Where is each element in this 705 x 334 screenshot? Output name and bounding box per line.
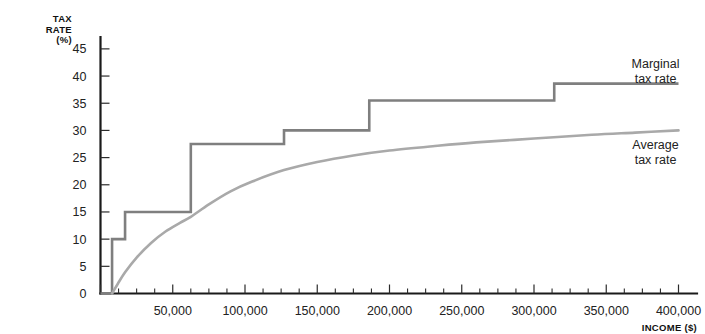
x-tick-label: 150,000 (295, 304, 340, 318)
series-label-line: tax rate (635, 153, 677, 167)
x-tick-label: 400,000 (656, 304, 701, 318)
x-tick-label: 200,000 (367, 304, 412, 318)
y-tick-label: 5 (80, 260, 87, 274)
y-tick-label: 15 (73, 205, 87, 219)
y-tick-label: 20 (73, 178, 87, 192)
y-tick-label: 35 (73, 97, 87, 111)
x-tick-label: 300,000 (511, 304, 556, 318)
x-tick-label: 100,000 (222, 304, 267, 318)
tax-rate-chart: 051015202530354045TAXRATE(%)50,000100,00… (0, 0, 705, 334)
series-label-line: Average (632, 138, 678, 152)
y-tick-label: 10 (73, 233, 87, 247)
x-axis-title: INCOME ($) (642, 322, 697, 333)
y-tick-label: 30 (73, 124, 87, 138)
y-axis-title-line: (%) (56, 34, 72, 45)
y-tick-label: 45 (73, 42, 87, 56)
plot-area: 051015202530354045TAXRATE(%)50,000100,00… (46, 13, 701, 333)
x-tick-label: 350,000 (584, 304, 629, 318)
y-tick-label: 0 (80, 287, 87, 301)
y-tick-label: 40 (73, 70, 87, 84)
x-tick-label: 250,000 (439, 304, 484, 318)
series-label-line: Marginal (632, 57, 680, 71)
average-tax-rate-line (112, 130, 678, 293)
y-axis-title-line: RATE (46, 24, 72, 35)
chart-canvas: 051015202530354045TAXRATE(%)50,000100,00… (0, 0, 705, 334)
marginal-tax-rate-line (101, 84, 679, 294)
x-tick-label: 50,000 (154, 304, 192, 318)
y-tick-label: 25 (73, 151, 87, 165)
series-label-line: tax rate (635, 72, 677, 86)
y-axis-title-line: TAX (53, 13, 73, 24)
